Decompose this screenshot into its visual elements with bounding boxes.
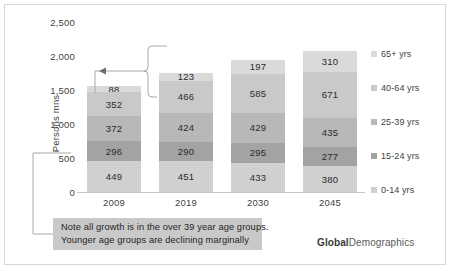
bar-segment[interactable]: 466 [159, 81, 213, 113]
bar-segment[interactable]: 310 [303, 51, 357, 72]
legend-label: 25-39 yrs [381, 117, 419, 127]
bar-segment-label: 197 [250, 61, 266, 72]
y-axis-tick: 1,000 [29, 119, 75, 130]
bar-segment[interactable]: 295 [231, 143, 285, 163]
bar-segment-label: 295 [250, 147, 266, 158]
x-axis-tick: 2019 [159, 197, 213, 208]
plot-area: 8835237229644920091234664242904512019197… [77, 23, 365, 193]
bar-segment[interactable]: 449 [87, 161, 141, 192]
bar-segment[interactable]: 671 [303, 72, 357, 118]
y-axis-tick: 1,500 [29, 85, 75, 96]
brand-bold: Global [317, 237, 349, 248]
chart-frame: Persons mns 05001,0001,5002,0002,500 883… [4, 4, 446, 265]
bar-column[interactable]: 123466424290451 [159, 73, 213, 192]
bar-segment[interactable]: 429 [231, 113, 285, 142]
bar-segment[interactable]: 197 [231, 60, 285, 73]
brand-watermark: GlobalDemographics [317, 237, 414, 248]
bar-column[interactable]: 197585429295433 [231, 60, 285, 192]
x-axis-tick: 2045 [303, 197, 357, 208]
bar-column[interactable]: 310671435277380 [303, 51, 357, 192]
bar-segment[interactable]: 352 [87, 92, 141, 116]
legend-swatch [371, 119, 377, 125]
bar-column[interactable]: 88352372296449 [87, 86, 141, 192]
legend-swatch [371, 187, 377, 193]
annotation-line-2: Younger age groups are declining margina… [61, 234, 262, 247]
y-axis: Persons mns 05001,0001,5002,0002,500 [23, 23, 75, 193]
bar-segment-label: 296 [106, 146, 122, 157]
bar-segment-label: 449 [106, 171, 122, 182]
bar-segment[interactable]: 296 [87, 141, 141, 161]
chart-annotation-box: Note all growth is in the over 39 year a… [53, 218, 262, 250]
bar-segment[interactable]: 435 [303, 118, 357, 148]
chart-legend: 65+ yrs40-64 yrs25-39 yrs15-24 yrs0-14 y… [371, 49, 445, 197]
bar-segment[interactable]: 424 [159, 113, 213, 142]
legend-item[interactable]: 25-39 yrs [371, 117, 419, 127]
bar-segment-label: 372 [106, 123, 122, 134]
y-axis-tick: 0 [29, 187, 75, 198]
x-axis-tick: 2009 [87, 197, 141, 208]
y-axis-tick: 500 [29, 153, 75, 164]
bar-segment-label: 310 [322, 56, 338, 67]
bar-segment-label: 380 [322, 174, 338, 185]
legend-item[interactable]: 15-24 yrs [371, 151, 419, 161]
bar-segment[interactable]: 277 [303, 147, 357, 166]
bar-segment-label: 277 [322, 151, 338, 162]
legend-swatch [371, 153, 377, 159]
bar-segment[interactable]: 290 [159, 142, 213, 162]
legend-item[interactable]: 0-14 yrs [371, 185, 414, 195]
bar-segment-label: 671 [322, 89, 338, 100]
annotation-line-1: Note all growth is in the over 39 year a… [61, 221, 262, 234]
y-axis-tick: 2,000 [29, 51, 75, 62]
legend-item[interactable]: 40-64 yrs [371, 83, 419, 93]
legend-swatch [371, 51, 377, 57]
bar-segment[interactable]: 372 [87, 116, 141, 141]
legend-item[interactable]: 65+ yrs [371, 49, 411, 59]
x-axis-tick: 2030 [231, 197, 285, 208]
legend-label: 0-14 yrs [381, 185, 414, 195]
bar-segment-label: 435 [322, 127, 338, 138]
bar-segment[interactable]: 451 [159, 161, 213, 192]
bar-segment-label: 451 [178, 171, 194, 182]
legend-label: 65+ yrs [381, 49, 411, 59]
bar-segment-label: 466 [178, 91, 194, 102]
bar-segment-label: 433 [250, 172, 266, 183]
bar-segment[interactable]: 380 [303, 166, 357, 192]
legend-swatch [371, 85, 377, 91]
x-axis-line [77, 192, 365, 193]
bar-segment[interactable]: 433 [231, 163, 285, 192]
bar-segment-label: 352 [106, 99, 122, 110]
bar-segment[interactable]: 123 [159, 73, 213, 81]
bar-segment-label: 585 [250, 88, 266, 99]
bar-segment-label: 424 [178, 122, 194, 133]
bar-segment[interactable]: 585 [231, 74, 285, 114]
bar-segment-label: 290 [178, 146, 194, 157]
legend-label: 40-64 yrs [381, 83, 419, 93]
legend-label: 15-24 yrs [381, 151, 419, 161]
brand-regular: Demographics [349, 237, 415, 248]
y-axis-tick: 2,500 [29, 17, 75, 28]
bar-segment-label: 429 [250, 122, 266, 133]
